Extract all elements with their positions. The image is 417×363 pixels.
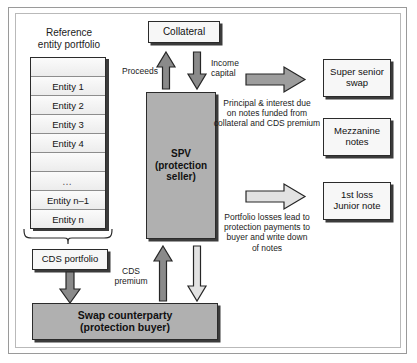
list-item[interactable]: Entity n–1 [31,191,105,210]
principal-interest-line2: on notes funded from [208,108,326,118]
portfolio-losses-note: Portfolio losses lead to protection paym… [208,212,326,253]
portfolio-losses-line4: of notes [208,243,326,253]
brace-icon [22,229,114,245]
portfolio-losses-line3: buyer and write down [208,232,326,242]
list-item[interactable]: Entity 3 [31,115,105,134]
super-senior-line2: swap [346,78,368,89]
junior-line2: Junior note [333,201,380,212]
portfolio-losses-line2: protection payments to [208,222,326,232]
arrow-cds-premium-up-icon [152,246,174,302]
list-item[interactable]: Entity n [31,210,105,228]
mezzanine-notes-box[interactable]: Mezzanine notes [323,118,391,156]
arrow-protection-payment-down-icon [186,246,208,302]
list-item[interactable] [31,153,105,172]
list-item[interactable]: Entity 1 [31,77,105,96]
arrow-cds-portfolio-to-swap-icon [58,272,82,304]
reference-entity-list[interactable]: Entity 1 Entity 2 Entity 3 Entity 4 … En… [30,57,106,229]
arrow-income-capital-down-icon [186,52,208,90]
junior-note-box[interactable]: 1st loss Junior note [323,182,391,220]
arrow-principal-interest-right-icon [246,67,306,93]
cds-premium-label: CDS premium [110,266,152,286]
swap-counterparty-line1: Swap counterparty [78,310,173,322]
reference-portfolio-label-line2: entity portfolio [24,39,114,51]
reference-portfolio-label-line1: Reference [24,27,114,39]
principal-interest-note: Principal & interest due on notes funded… [208,98,326,129]
mezzanine-line2: notes [345,137,368,148]
reference-portfolio-label: Reference entity portfolio [24,27,114,51]
swap-counterparty-box[interactable]: Swap counterparty (protection buyer) [32,303,218,340]
spv-line3: seller) [166,171,195,182]
list-item[interactable] [31,58,105,77]
collateral-label: Collateral [163,26,205,37]
spv-line1: SPV [171,148,191,159]
list-item[interactable]: Entity 2 [31,96,105,115]
principal-interest-line3: collateral and CDS premium [208,118,326,128]
proceeds-label: Proceeds [110,66,158,76]
arrow-portfolio-losses-right-icon [246,184,306,210]
arrow-proceeds-up-icon [155,52,177,90]
cds-premium-line1: CDS [110,266,152,276]
collateral-box[interactable]: Collateral [148,21,220,43]
principal-interest-line1: Principal & interest due [208,98,326,108]
spv-line2: (protection [155,160,207,171]
list-item[interactable]: Entity 4 [31,134,105,153]
swap-counterparty-line2: (protection buyer) [80,322,170,334]
cds-portfolio-label: CDS portfolio [42,254,99,265]
super-senior-swap-box[interactable]: Super senior swap [323,59,391,97]
cds-premium-line2: premium [110,276,152,286]
diagram-canvas: Reference entity portfolio Entity 1 Enti… [0,0,417,363]
portfolio-losses-line1: Portfolio losses lead to [208,212,326,222]
cds-portfolio-box[interactable]: CDS portfolio [32,249,108,270]
spv-box[interactable]: SPV (protection seller) [146,92,216,239]
list-item-ellipsis: … [31,172,105,191]
